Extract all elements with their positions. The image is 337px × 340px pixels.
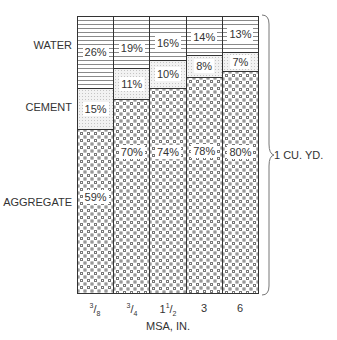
value-label: 10% xyxy=(155,67,181,81)
value-label: 74% xyxy=(155,145,181,159)
value-label: 70% xyxy=(119,145,145,159)
xtick-3-4: 3/4 xyxy=(114,302,150,317)
value-label: 78% xyxy=(191,144,217,158)
segment-aggregate: 74% xyxy=(150,89,185,293)
value-label: 26% xyxy=(83,45,109,59)
stacked-bar-chart: 26% 15% 59% 19% 11% 70% 16% 10% 74% 14% … xyxy=(77,16,259,294)
brace-icon xyxy=(261,14,275,296)
value-label: 11% xyxy=(119,77,144,91)
value-label: 16% xyxy=(155,36,181,50)
value-label: 80% xyxy=(227,145,253,159)
bar-3: 14% 8% 78% xyxy=(187,17,223,293)
segment-cement: 11% xyxy=(114,69,149,99)
segment-water: 14% xyxy=(187,17,222,56)
bar-3-4: 19% 11% 70% xyxy=(114,17,150,293)
row-label-water: WATER xyxy=(0,39,72,51)
segment-water: 13% xyxy=(223,17,258,53)
brace-label: 1 CU. YD. xyxy=(274,149,323,161)
segment-water: 19% xyxy=(114,17,149,69)
segment-cement: 15% xyxy=(78,89,113,130)
segment-water: 26% xyxy=(78,17,113,89)
xtick-6: 6 xyxy=(222,302,258,314)
xtick-1-1-2: 11/2 xyxy=(150,302,186,317)
xtick-3-8: 3/8 xyxy=(77,302,113,317)
segment-aggregate: 80% xyxy=(223,72,258,293)
row-label-aggregate: AGGREGATE xyxy=(0,196,72,208)
row-label-cement: CEMENT xyxy=(0,101,72,113)
value-label: 14% xyxy=(191,30,217,44)
segment-aggregate: 78% xyxy=(187,78,222,293)
segment-cement: 10% xyxy=(150,61,185,89)
xtick-3: 3 xyxy=(186,302,222,314)
value-label: 7% xyxy=(230,55,250,69)
bar-3-8: 26% 15% 59% xyxy=(78,17,114,293)
segment-aggregate: 70% xyxy=(114,100,149,293)
x-axis-label: MSA, IN. xyxy=(118,320,218,332)
segment-water: 16% xyxy=(150,17,185,61)
value-label: 13% xyxy=(227,27,253,41)
value-label: 15% xyxy=(83,102,109,116)
segment-aggregate: 59% xyxy=(78,130,113,293)
value-label: 19% xyxy=(119,41,145,55)
value-label: 8% xyxy=(194,59,214,73)
bar-1-1-2: 16% 10% 74% xyxy=(150,17,186,293)
segment-cement: 7% xyxy=(223,53,258,72)
segment-cement: 8% xyxy=(187,56,222,78)
value-label: 59% xyxy=(83,190,109,204)
bar-6: 13% 7% 80% xyxy=(223,17,258,293)
